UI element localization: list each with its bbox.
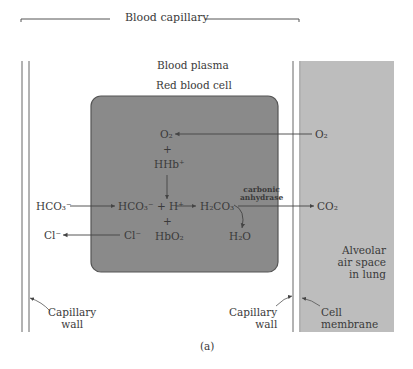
label-alveolar-space: Alveolar air space in lung: [330, 244, 386, 280]
enzyme-line-2: anhydrase: [240, 194, 283, 202]
label-blood-plasma: Blood plasma: [157, 60, 229, 71]
alveolar-line-2: air space: [330, 256, 386, 268]
plus-sign-2: +: [163, 216, 172, 227]
plus-sign: +: [163, 144, 172, 155]
cm-line-1: Cell: [321, 306, 378, 318]
co2-lung: CO₂: [317, 201, 338, 212]
label-capillary-wall-left: Capillary wall: [48, 306, 96, 330]
enzyme-label: carbonic anhydrase: [240, 186, 283, 202]
hco3-plasma: HCO₃⁻: [36, 201, 72, 212]
title-blood-capillary: Blood capillary: [125, 12, 209, 23]
alveolar-line-3: in lung: [330, 268, 386, 280]
h2o: H₂O: [229, 231, 251, 242]
hbo2: HbO₂: [155, 231, 184, 242]
figure-caption: (a): [200, 341, 214, 352]
label-capillary-wall-right: Capillary wall: [229, 306, 277, 330]
label-cell-membrane: Cell membrane: [321, 306, 378, 330]
hco3-h-cell: HCO₃⁻ + H⁺: [118, 201, 184, 212]
o2-cell: O₂: [160, 129, 173, 140]
h2co3: H₂CO₃: [200, 201, 234, 212]
label-red-blood-cell: Red blood cell: [156, 80, 232, 91]
cwl-line-1: Capillary: [48, 306, 96, 318]
cl-cell: Cl⁻: [124, 230, 141, 241]
cm-line-2: membrane: [321, 318, 378, 330]
cl-plasma: Cl⁻: [44, 230, 61, 241]
cwr-line-2: wall: [229, 318, 277, 330]
hhb: HHb⁺: [154, 159, 185, 170]
red-blood-cell: [91, 96, 278, 272]
o2-lung: O₂: [315, 129, 328, 140]
alveolar-space: [301, 61, 394, 332]
cwr-line-1: Capillary: [229, 306, 277, 318]
cwl-line-2: wall: [48, 318, 96, 330]
alveolar-line-1: Alveolar: [330, 244, 386, 256]
